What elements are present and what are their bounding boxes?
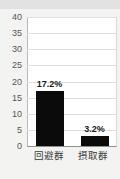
y-tick-label: 30 (0, 45, 22, 54)
category-label: 摂取群 (70, 151, 116, 161)
bar-slot: 3.2% (72, 17, 117, 146)
bar (36, 91, 64, 146)
y-tick-label: 5 (0, 125, 22, 134)
bar-value-label: 17.2% (37, 80, 63, 89)
bar-value-label: 3.2% (84, 125, 105, 134)
bar-chart-figure: 0510152025303540 17.2%3.2% 回避群摂取群 (0, 0, 120, 179)
plot-wrapper: 0510152025303540 17.2%3.2% (27, 17, 117, 147)
y-tick-label: 40 (0, 13, 22, 22)
top-gray-band (0, 0, 120, 9)
y-tick-label: 10 (0, 109, 22, 118)
y-tick-label: 0 (0, 142, 22, 151)
y-tick-label: 15 (0, 93, 22, 102)
y-tick-label: 25 (0, 61, 22, 70)
bar (81, 136, 109, 146)
y-tick-label: 35 (0, 29, 22, 38)
y-tick-label: 20 (0, 77, 22, 86)
bar-slot: 17.2% (27, 17, 72, 146)
category-label: 回避群 (26, 151, 72, 161)
